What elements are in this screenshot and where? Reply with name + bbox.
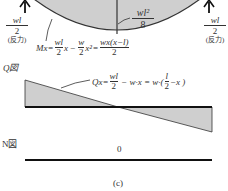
diagram-canvas	[0, 0, 228, 191]
shear-diagram-negative-area	[118, 107, 212, 132]
normal-force-value: 0	[117, 144, 122, 154]
shear-formula: Qx= wl 2 − w·x = w·( l 2 −x )	[92, 72, 185, 91]
max-moment-label: wl² 8	[132, 7, 154, 30]
qx-leader	[61, 80, 90, 88]
shear-diagram-title: Q図	[3, 61, 19, 74]
left-reaction-arrow-icon	[20, 0, 30, 13]
right-reaction-arrow-icon	[204, 0, 214, 13]
left-reaction-label: wl 2 (反力)	[6, 15, 28, 45]
moment-formula: Mx= wl 2 x − w 2 x² = wx(x−l) 2	[36, 38, 130, 57]
figure-label: (c)	[113, 178, 123, 188]
right-reaction-label: wl 2 (反力)	[204, 15, 226, 45]
normal-diagram-title: N図	[2, 137, 18, 150]
